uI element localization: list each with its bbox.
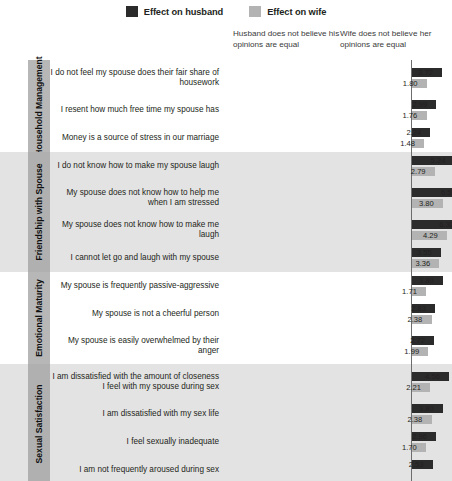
row-panels: 2.531.862.72 [228,456,452,481]
section-rows: I am dissatisfied with the amount of clo… [50,364,452,481]
row-panels: 3.802.383.945.31 [228,400,452,428]
chart-row: I resent how much free time my spouse ha… [50,96,452,124]
row-label: I am dissatisfied with my sex life [50,409,228,419]
bar-value-label: 2.24 [406,128,421,137]
legend-item-wife: Effect on wife [249,6,326,17]
chart-row: I do not feel my spouse does their fair … [50,60,452,96]
chart-section: Household ManagementI do not feel my spo… [0,60,452,152]
row-panels: 2.961.701.613.48 [228,428,452,456]
legend-swatch-wife [249,6,261,17]
chart-section: Sexual SatisfactionI am dissatisfied wit… [0,364,452,481]
row-label: Money is a source of stress in our marri… [50,133,228,143]
bar-value-label: 6.53 [441,188,452,197]
row-label: I feel sexually inadequate [50,437,228,447]
row-panels: 5.242.794.504.93 [228,152,452,180]
bar-value-label: 5.24 [431,156,446,165]
panel-header-husband: Husband does not believe his opinions ar… [233,29,353,50]
bar-value-label: 4.29 [423,231,438,240]
row-panels: 3.553.362.304.19 [228,244,452,272]
row-panels: 2.721.992.253.13 [228,328,452,364]
row-label: I am not frequently aroused during sex [50,465,228,475]
row-label: My spouse is not a cheerful person [50,309,228,319]
chart-row: I do not know how to make my spouse laug… [50,152,452,180]
row-label: My spouse does not know how to help me w… [50,188,228,209]
chart-row: My spouse is not a cheerful person2.832.… [50,300,452,328]
bar-value-label: 2.83 [411,304,426,313]
chart-row: My spouse is frequently passive-aggressi… [50,272,452,300]
legend-swatch-husband [126,6,138,17]
chart-row: My spouse does not know how to help me w… [50,180,452,216]
section-label-friendship-with-spouse: Friendship with Spouse [28,152,50,272]
bar-value-label: 2.21 [406,383,421,392]
bar-value-label: 2.96 [412,432,427,441]
chart-section: Emotional MaturityMy spouse is frequentl… [0,272,452,364]
grouped-bar-chart: Household ManagementI do not feel my spo… [0,60,452,475]
bar-value-label: 3.55 [417,248,432,257]
bar-value-label: 3.80 [419,276,434,285]
section-rows: I do not know how to make my spouse laug… [50,152,452,272]
bar-value-label: 2.72 [410,336,425,345]
row-panels: 4.562.213.307.93 [228,364,452,400]
section-label-text: Emotional Maturity [34,279,44,356]
row-panels: 2.832.382.343.79 [228,300,452,328]
section-label-household-management: Household Management [28,60,50,152]
section-label-sexual-satisfaction: Sexual Satisfaction [28,364,50,481]
row-label: I do not know how to make my spouse laug… [50,161,228,171]
row-label: I do not feel my spouse does their fair … [50,68,228,89]
section-label-emotional-maturity: Emotional Maturity [28,272,50,364]
row-panels: 2.241.481.862.33 [228,124,452,152]
row-label: I cannot let go and laugh with my spouse [50,253,228,263]
bar-value-label: 2.38 [408,315,423,324]
chart-row: My spouse is easily overwhelmed by their… [50,328,452,364]
row-panels: 2.991.761.913.27 [228,96,452,124]
legend-item-husband: Effect on husband [126,6,223,17]
legend-label-husband: Effect on husband [144,7,223,17]
chart-row: Money is a source of stress in our marri… [50,124,452,152]
bar-value-label: 1.48 [400,139,415,148]
chart-row: I feel sexually inadequate2.961.701.613.… [50,428,452,456]
row-panels: 3.801.712.154.62 [228,272,452,300]
chart-row: My spouse does not know how to make me l… [50,216,452,244]
bar-value-label: 1.76 [403,111,418,120]
bar-value-label: 1.80 [403,79,418,88]
bar-value-label: 4.56 [425,372,440,381]
bar-value-label: 1.70 [402,443,417,452]
bar-value-label: 3.72 [418,68,433,77]
bar-value-label: 1.71 [402,287,417,296]
bar-value-label: 3.80 [419,404,434,413]
chart-row: I am dissatisfied with my sex life3.802.… [50,400,452,428]
bar-value-label: 3.36 [415,259,430,268]
section-rows: My spouse is frequently passive-aggressi… [50,272,452,364]
bar-value-label: 6.32 [439,220,452,229]
panel-header-wife: Wife does not believe her opinions are e… [340,29,452,50]
chart-row: I am not frequently aroused during sex2.… [50,456,452,481]
bar-value-label: 2.53 [409,460,424,469]
bar-value-label: 2.99 [412,100,427,109]
bar-value-label: 2.38 [408,415,423,424]
section-label-text: Friendship with Spouse [34,164,44,261]
panel-axis [411,180,412,216]
chart-legend: Effect on husband Effect on wife [0,6,452,17]
row-panels: 3.721.804.40 [228,60,452,96]
row-label: I resent how much free time my spouse ha… [50,105,228,115]
bar-value-label: 1.99 [404,347,419,356]
chart-row: I am dissatisfied with the amount of clo… [50,364,452,400]
legend-label-wife: Effect on wife [267,7,326,17]
chart-row: I cannot let go and laugh with my spouse… [50,244,452,272]
row-label: My spouse is frequently passive-aggressi… [50,281,228,291]
row-panels: 6.533.803.0512.14 [228,180,452,216]
section-rows: I do not feel my spouse does their fair … [50,60,452,152]
row-label: My spouse is easily overwhelmed by their… [50,336,228,357]
chart-section: Friendship with SpouseI do not know how … [0,152,452,272]
bar-value-label: 3.80 [419,199,434,208]
section-label-text: Sexual Satisfaction [34,385,44,464]
section-label-text: Household Management [34,56,44,155]
row-label: I am dissatisfied with the amount of clo… [50,372,228,393]
row-panels: 6.324.293.956.19 [228,216,452,244]
bar-value-label: 2.79 [411,167,426,176]
row-label: My spouse does not know how to make me l… [50,220,228,241]
panel-headers: Husband does not believe his opinions ar… [0,29,452,57]
